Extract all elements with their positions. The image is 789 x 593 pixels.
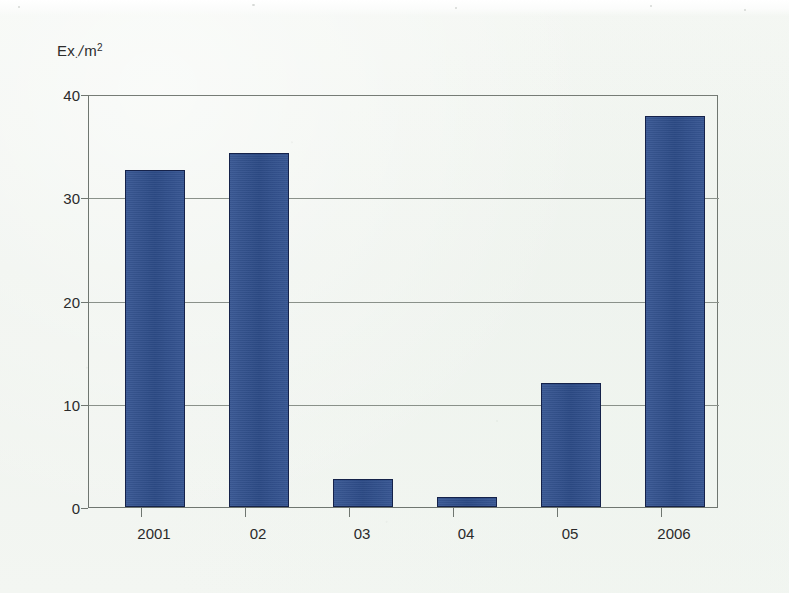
bar-05 (541, 383, 601, 507)
scan-speck (650, 5, 652, 7)
scan-speck (744, 9, 746, 11)
y-tick-label-30: 30 (40, 190, 80, 207)
x-tick-label-05: 05 (562, 525, 579, 542)
x-tick-mark-3 (349, 508, 350, 517)
y-axis-unit-denominator: m (84, 42, 97, 59)
x-tick-label-04: 04 (458, 525, 475, 542)
y-tick-mark-10 (81, 405, 88, 406)
x-tick-label-02: 02 (250, 525, 267, 542)
y-tick-label-20: 20 (40, 293, 80, 310)
x-tick-mark-2 (245, 508, 246, 517)
bar-2001 (125, 170, 185, 507)
bar-02 (229, 153, 289, 507)
x-tick-label-2001: 2001 (137, 525, 170, 542)
scan-edge-artifact (0, 0, 789, 16)
x-tick-mark-4 (453, 508, 454, 517)
bar-04 (437, 497, 497, 507)
x-tick-mark-1 (141, 508, 142, 517)
scan-speck (455, 7, 457, 9)
scan-speck (18, 6, 20, 8)
y-axis-unit-base: Ex (57, 42, 75, 59)
y-axis-unit-label: Ex./m2 (57, 42, 103, 60)
y-axis: 40 30 20 10 0 (38, 95, 80, 508)
scan-speck (252, 4, 255, 6)
x-tick-mark-6 (661, 508, 662, 517)
plot-area (88, 95, 718, 508)
bar-2006 (645, 116, 705, 507)
y-tick-mark-0 (81, 508, 88, 509)
bar-03 (333, 479, 393, 507)
x-tick-mark-5 (557, 508, 558, 517)
x-tick-label-2006: 2006 (657, 525, 690, 542)
y-tick-mark-30 (81, 198, 88, 199)
y-tick-mark-20 (81, 302, 88, 303)
y-tick-mark-40 (81, 95, 88, 96)
x-tick-label-03: 03 (354, 525, 371, 542)
y-tick-label-40: 40 (40, 87, 80, 104)
y-tick-label-0: 0 (40, 500, 80, 517)
y-tick-label-10: 10 (40, 396, 80, 413)
y-axis-unit-exponent: 2 (97, 42, 103, 53)
chart-page: Ex./m2 40 30 20 10 0 2001 02 03 04 05 20… (0, 0, 789, 593)
